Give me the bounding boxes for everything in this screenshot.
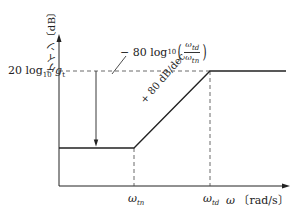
x-axis-label: ω 〔rad/s〕 xyxy=(226,191,289,207)
xtick2-sub: td xyxy=(212,199,219,207)
right-paren: ) xyxy=(203,43,207,61)
xaxis-var: ω xyxy=(226,194,235,207)
ytick-base: 10 xyxy=(43,71,52,79)
den-sub: tn xyxy=(192,56,199,64)
ytick-prefix: 20 log xyxy=(8,64,43,77)
ytick-sub: t xyxy=(62,71,65,79)
y-tick-label: 20 log10 gt xyxy=(8,64,65,79)
xtick1-var: ω xyxy=(128,192,137,205)
num-sub: td xyxy=(192,44,199,52)
gain-asymptote-line xyxy=(59,71,286,148)
y-axis-label-unit: 〔dB〕 xyxy=(46,6,57,42)
x-tick-omega-tn: ωtn xyxy=(128,192,144,207)
drop-annotation: − 80 log10 ( ωtd ωtn ) xyxy=(120,40,208,64)
annot-fraction: ωtd ωtn xyxy=(184,40,200,64)
annot-numerator: ωtd xyxy=(184,40,200,53)
annot-denominator: ωtn xyxy=(185,53,199,65)
x-tick-omega-td: ωtd xyxy=(203,192,219,207)
bode-gain-diagram: ゲイン〔dB〕 20 log10 gt − 80 log10 ( ωtd ωtn… xyxy=(0,0,298,212)
xaxis-unit: 〔rad/s〕 xyxy=(238,194,288,207)
annot-prefix: − 80 log xyxy=(120,46,167,59)
xtick1-sub: tn xyxy=(137,199,144,207)
xtick2-var: ω xyxy=(203,192,212,205)
